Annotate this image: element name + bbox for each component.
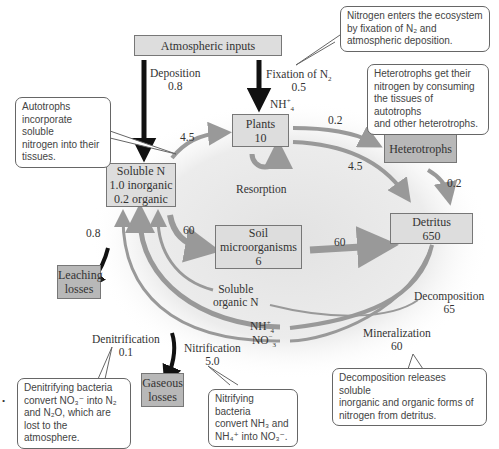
callout-heterotrophs: Heterotrophs get their nitrogen by consu… xyxy=(367,64,489,135)
callout-line: NH₄⁺ into NO₃⁻. xyxy=(215,431,291,444)
soil-label-1: Soil xyxy=(216,226,301,240)
soluble-n-box: Soluble N 1.0 inorganic 0.2 organic xyxy=(106,163,176,207)
denitrification-name: Denitrification xyxy=(92,333,160,346)
leaching-value: 0.8 xyxy=(86,227,100,240)
nh4-flow-sup: + xyxy=(267,319,271,327)
callout-line: convert NO₃⁻ into N₂ xyxy=(24,395,124,408)
gaseous-losses-box: Gaseous losses xyxy=(141,373,184,407)
callout-line: tissues. xyxy=(22,151,104,164)
nitrification-name: Nitrification xyxy=(184,342,241,355)
callout-line: Autotrophs xyxy=(22,101,104,114)
resorption-label: Resorption xyxy=(236,183,286,196)
callout-line: incorporate soluble xyxy=(22,114,104,139)
deposition-name: Deposition xyxy=(150,67,200,80)
atmospheric-inputs-label: Atmospheric inputs xyxy=(135,39,281,53)
callout-nitrogen-enters: Nitrogen enters the ecosystem by fixatio… xyxy=(340,6,490,52)
soil-value: 6 xyxy=(216,254,301,268)
nh4-sup: + xyxy=(287,97,291,105)
callout-line: the tissues of autotrophs xyxy=(374,93,482,118)
soluble-n-organic: 0.2 organic xyxy=(107,192,175,206)
callout-denitrifying: Denitrifying bacteria convert NO₃⁻ into … xyxy=(17,378,131,449)
callout-line: by fixation of N₂ and xyxy=(347,23,483,36)
plants-label: Plants xyxy=(233,117,288,131)
callout-decomposition: Decomposition releases soluble inorganic… xyxy=(332,368,487,426)
fixation-nh4-label: NH+4 xyxy=(270,98,294,111)
callout-autotrophs: Autotrophs incorporate soluble nitrogen … xyxy=(15,97,111,168)
soluble-n-label: Soluble N xyxy=(107,164,175,178)
fixation-value: 0.5 xyxy=(266,81,331,94)
leaching-losses-box: Leaching losses xyxy=(57,265,101,299)
detritus-box: Detritus 650 xyxy=(390,213,473,244)
nitrification-value: 5.0 xyxy=(184,355,241,368)
no3-flow-text: NO xyxy=(252,334,269,346)
callout-nitrifying: Nitrifying bacteria convert NH₃ and NH₄⁺… xyxy=(208,389,298,447)
fixation-sub: 2 xyxy=(328,75,332,83)
heterotrophs-label: Heterotrophs xyxy=(385,142,456,156)
callout-line: Decomposition releases soluble xyxy=(339,372,480,397)
callout-line: nitrogen by consuming xyxy=(374,81,482,94)
decomposition-label: Decomposition 65 xyxy=(414,290,484,316)
margin-mark: • xyxy=(2,395,5,408)
nh4-flow-text: NH xyxy=(250,320,267,332)
soluble-organic-line1: Soluble xyxy=(213,283,258,296)
callout-line: and N₂O, which are xyxy=(24,407,124,420)
nh4-sub: 4 xyxy=(291,105,295,113)
gaseous-label-2: losses xyxy=(142,390,183,404)
callout-line: inorganic and organic forms of xyxy=(339,397,480,410)
atmospheric-inputs-box: Atmospheric inputs xyxy=(134,35,282,56)
callout-line: nitrogen from detritus. xyxy=(339,410,480,423)
callout-line: nitrogen into their xyxy=(22,139,104,152)
callout-line: Denitrifying bacteria xyxy=(24,382,124,395)
fixation-label: Fixation of N2 0.5 xyxy=(266,68,331,94)
detritus-value: 650 xyxy=(391,229,472,243)
callout-line: convert NH₃ and xyxy=(215,418,291,431)
callout-line: Nitrogen enters the ecosystem xyxy=(347,10,483,23)
plants-value: 10 xyxy=(233,131,288,145)
fixation-name: Fixation of N xyxy=(266,68,328,80)
soluble-to-plants-value: 4.5 xyxy=(180,131,194,144)
deposition-value: 0.8 xyxy=(150,80,200,93)
soluble-n-inorganic: 1.0 inorganic xyxy=(107,178,175,192)
leaching-label-2: losses xyxy=(58,282,100,296)
soluble-to-soil-value: 60 xyxy=(183,224,195,237)
nh4-text: NH xyxy=(270,98,287,110)
no3-flow-label: NO−3 xyxy=(252,334,276,347)
callout-pointer-decomposition xyxy=(408,354,423,369)
soil-microorganisms-box: Soil microorganisms 6 xyxy=(215,225,302,269)
denitrification-value: 0.1 xyxy=(92,346,160,359)
soluble-organic-line2: organic N xyxy=(213,296,258,309)
mineralization-label: Mineralization 60 xyxy=(363,327,431,353)
soil-to-detritus-value: 60 xyxy=(334,236,346,249)
callout-pointer-nitrogen xyxy=(296,35,340,65)
decomposition-value: 65 xyxy=(414,303,484,316)
mineralization-value: 60 xyxy=(363,340,431,353)
no3-flow-sup: − xyxy=(269,333,273,341)
plants-box: Plants 10 xyxy=(232,114,289,147)
heterotrophs-to-detritus-value: 0.2 xyxy=(447,177,461,190)
nh4-flow-label: NH+4 xyxy=(250,320,274,333)
nitrification-label: Nitrification 5.0 xyxy=(184,342,241,368)
plants-to-detritus-value: 4.5 xyxy=(348,160,362,173)
detritus-label: Detritus xyxy=(391,215,472,229)
callout-line: Heterotrophs get their xyxy=(374,68,482,81)
gaseous-label-1: Gaseous xyxy=(142,376,183,390)
callout-line: and other heterotrophs. xyxy=(374,118,482,131)
deposition-label: Deposition 0.8 xyxy=(150,67,200,93)
mineralization-name: Mineralization xyxy=(363,327,431,340)
leaching-label-1: Leaching xyxy=(58,268,100,282)
decomposition-name: Decomposition xyxy=(414,290,484,303)
soluble-organic-label: Soluble organic N xyxy=(213,283,258,309)
callout-line: Nitrifying bacteria xyxy=(215,393,291,418)
soil-label-2: microorganisms xyxy=(216,240,301,254)
callout-line: atmospheric deposition. xyxy=(347,35,483,48)
heterotrophs-box: Heterotrophs xyxy=(384,134,457,163)
plants-to-heterotrophs-value: 0.2 xyxy=(328,114,342,127)
callout-line: lost to the atmosphere. xyxy=(24,420,124,445)
no3-flow-sub: 3 xyxy=(273,341,277,349)
denitrification-label: Denitrification 0.1 xyxy=(92,333,160,359)
